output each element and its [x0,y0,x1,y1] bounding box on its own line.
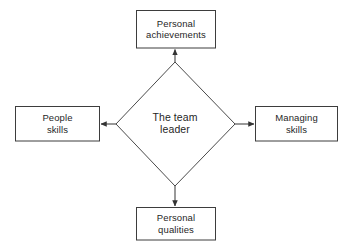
node-managing-skills[interactable] [255,106,338,141]
node-personal-qualities[interactable] [136,207,216,240]
node-people-skills[interactable] [15,106,100,141]
diagram-canvas: Personal achievements People skills Mana… [0,0,350,245]
node-personal-achievements[interactable] [136,10,216,48]
node-team-leader[interactable] [116,62,235,186]
